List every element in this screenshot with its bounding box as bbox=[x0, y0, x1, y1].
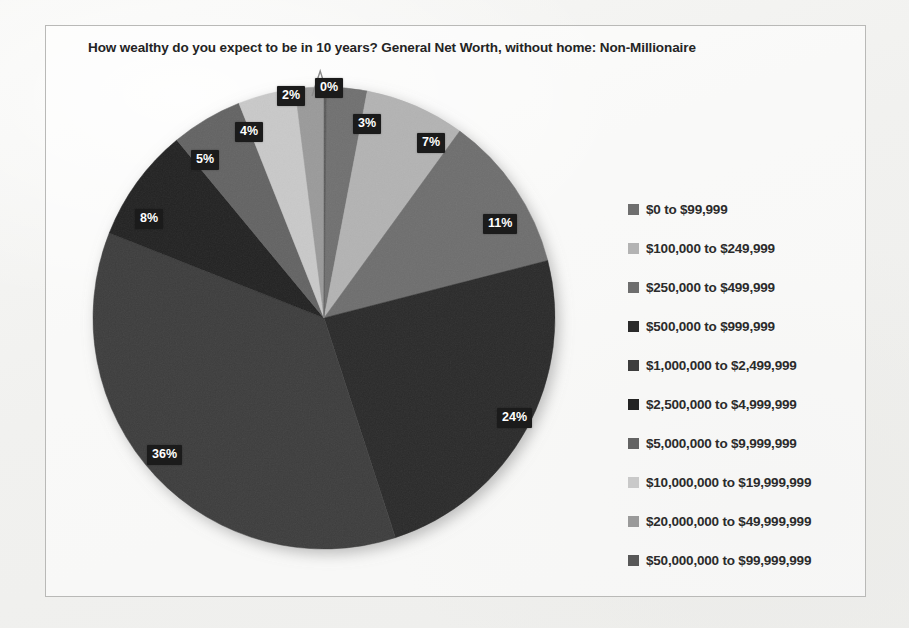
legend-item-label: $50,000,000 to $99,999,999 bbox=[646, 553, 811, 568]
legend-swatch-icon bbox=[628, 321, 639, 332]
legend-item-label: $5,000,000 to $9,999,999 bbox=[646, 436, 797, 451]
data-label-11-percent: 11% bbox=[483, 214, 517, 234]
data-label-0-percent: 0% bbox=[315, 78, 343, 98]
legend-swatch-icon bbox=[628, 204, 639, 215]
legend-swatch-icon bbox=[628, 477, 639, 488]
legend-item-label: $10,000,000 to $19,999,999 bbox=[646, 475, 811, 490]
legend-item[interactable]: $250,000 to $499,999 bbox=[628, 268, 868, 307]
chart-title: How wealthy do you expect to be in 10 ye… bbox=[88, 40, 848, 55]
legend-item-label: $250,000 to $499,999 bbox=[646, 280, 775, 295]
data-label-3-percent: 3% bbox=[353, 114, 381, 134]
pie-grain-overlay bbox=[93, 87, 555, 549]
data-label-8-percent: 8% bbox=[135, 209, 163, 229]
legend-item-label: $100,000 to $249,999 bbox=[646, 241, 775, 256]
legend-swatch-icon bbox=[628, 360, 639, 371]
legend-item[interactable]: $10,000,000 to $19,999,999 bbox=[628, 463, 868, 502]
legend-swatch-icon bbox=[628, 282, 639, 293]
legend-item-label: $0 to $99,999 bbox=[646, 202, 727, 217]
legend-item[interactable]: $100,000 to $249,999 bbox=[628, 229, 868, 268]
legend-item[interactable]: $0 to $99,999 bbox=[628, 190, 868, 229]
chart-legend: $0 to $99,999$100,000 to $249,999$250,00… bbox=[628, 190, 868, 580]
legend-item-label: $1,000,000 to $2,499,999 bbox=[646, 358, 797, 373]
legend-swatch-icon bbox=[628, 438, 639, 449]
pie-chart-area: 2% 0% 4% 5% 8% 36% 3% 7% 11% 24% bbox=[60, 68, 600, 578]
legend-item-label: $2,500,000 to $4,999,999 bbox=[646, 397, 797, 412]
legend-swatch-icon bbox=[628, 243, 639, 254]
legend-item[interactable]: $50,000,000 to $99,999,999 bbox=[628, 541, 868, 580]
legend-item[interactable]: $2,500,000 to $4,999,999 bbox=[628, 385, 868, 424]
legend-swatch-icon bbox=[628, 555, 639, 566]
data-label-4-percent: 4% bbox=[235, 122, 263, 142]
legend-item-label: $500,000 to $999,999 bbox=[646, 319, 775, 334]
legend-item[interactable]: $500,000 to $999,999 bbox=[628, 307, 868, 346]
data-label-2-percent: 2% bbox=[277, 86, 305, 106]
data-label-7-percent: 7% bbox=[417, 133, 445, 153]
pie-chart-svg bbox=[60, 68, 600, 578]
legend-item[interactable]: $20,000,000 to $49,999,999 bbox=[628, 502, 868, 541]
legend-item[interactable]: $1,000,000 to $2,499,999 bbox=[628, 346, 868, 385]
legend-item-label: $20,000,000 to $49,999,999 bbox=[646, 514, 811, 529]
legend-swatch-icon bbox=[628, 516, 639, 527]
data-label-24-percent: 24% bbox=[497, 408, 532, 428]
data-label-36-percent: 36% bbox=[147, 445, 182, 465]
legend-swatch-icon bbox=[628, 399, 639, 410]
legend-item[interactable]: $5,000,000 to $9,999,999 bbox=[628, 424, 868, 463]
data-label-5-percent: 5% bbox=[191, 150, 219, 170]
chart-page: How wealthy do you expect to be in 10 ye… bbox=[0, 0, 909, 628]
